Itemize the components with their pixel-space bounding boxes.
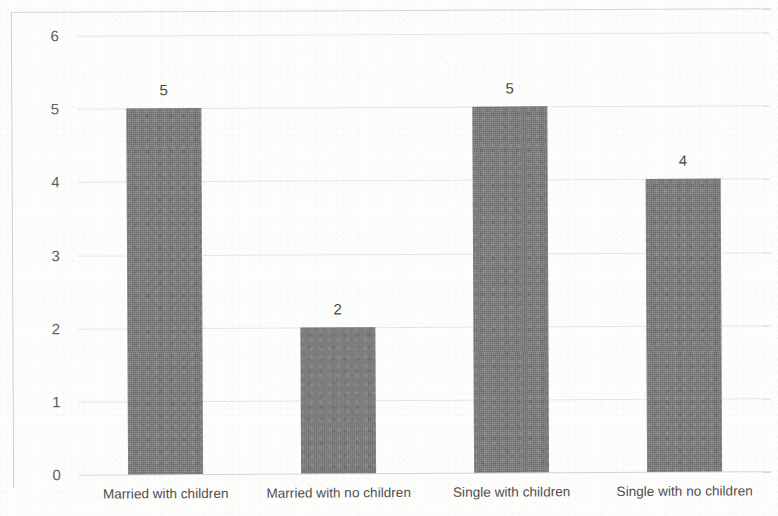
category-label: Single with no children [598, 483, 771, 499]
y-tick-label-3: 3 [34, 247, 60, 264]
bar-value-label: 4 [643, 152, 723, 169]
chart-top-border [11, 8, 771, 13]
gridline-6 [77, 32, 769, 36]
bar [646, 179, 722, 472]
bar-value-label: 5 [124, 81, 204, 98]
category-label: Single with children [425, 484, 598, 500]
chart-left-axis-line [11, 12, 14, 488]
y-tick-label-1: 1 [35, 393, 61, 410]
category-label: Married with no children [252, 485, 425, 501]
bar [126, 108, 203, 474]
y-tick-label-2: 2 [34, 320, 60, 337]
y-tick-label-4: 4 [34, 174, 60, 191]
chart-plot-area: 0123456 5254 Married with childrenMarrie… [0, 0, 778, 516]
y-tick-label-5: 5 [33, 100, 59, 117]
bar [300, 327, 376, 474]
bar-value-label: 2 [298, 300, 378, 317]
y-tick-label-0: 0 [35, 466, 61, 483]
category-label: Married with children [79, 486, 252, 502]
y-tick-label-6: 6 [33, 27, 59, 44]
bar-value-label: 5 [470, 80, 550, 97]
bar [472, 107, 549, 473]
scanned-page: 0123456 5254 Married with childrenMarrie… [0, 0, 778, 516]
